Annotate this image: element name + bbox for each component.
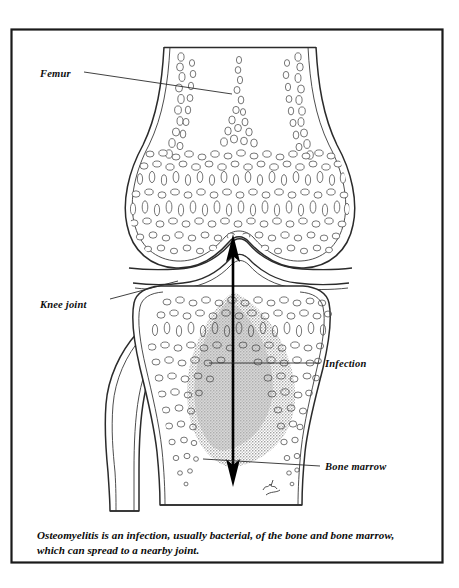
anatomy-diagram: Femur Knee joint Infection Bone marrow	[0, 0, 459, 588]
label-femur: Femur	[39, 68, 71, 79]
label-knee-joint: Knee joint	[39, 299, 88, 310]
femur-bone	[125, 47, 354, 268]
label-infection: Infection	[324, 358, 366, 369]
illustration-figure: Femur Knee joint Infection Bone marrow O…	[0, 0, 459, 588]
figure-caption: Osteomyelitis is an infection, usually b…	[37, 528, 427, 557]
label-bone-marrow: Bone marrow	[324, 461, 387, 472]
caption-line-2: which can spread to a nearby joint.	[37, 543, 427, 558]
caption-line-1: Osteomyelitis is an infection, usually b…	[37, 528, 427, 543]
